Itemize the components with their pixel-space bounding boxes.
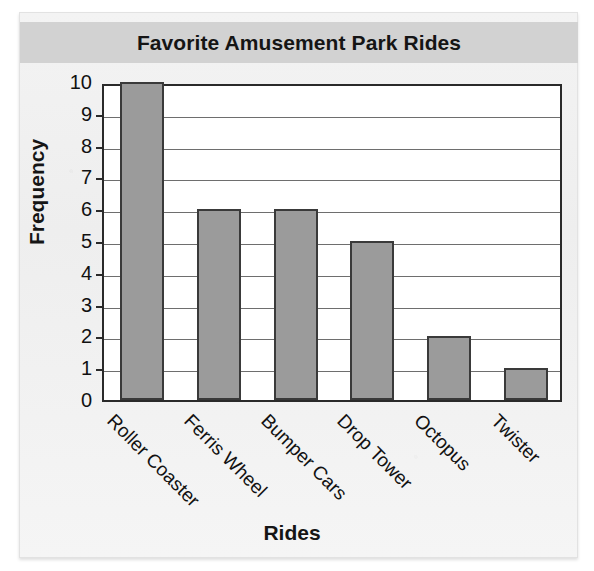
bar-roller-coaster[interactable] <box>120 82 164 400</box>
chart-title: Favorite Amusement Park Rides <box>137 31 461 55</box>
bar-octopus[interactable] <box>427 336 471 400</box>
y-tick-label: 5 <box>44 230 92 253</box>
y-tick-label: 0 <box>44 389 92 412</box>
bars-layer <box>104 86 560 400</box>
y-tick-label: 3 <box>44 294 92 317</box>
y-tick-label: 2 <box>44 325 92 348</box>
bar-bumper-cars[interactable] <box>274 209 318 400</box>
plot-area <box>102 84 562 402</box>
bar-drop-tower[interactable] <box>350 241 394 400</box>
bar-ferris-wheel[interactable] <box>197 209 241 400</box>
y-tick-label: 9 <box>44 103 92 126</box>
y-tick-label: 8 <box>44 135 92 158</box>
y-tick-label: 1 <box>44 357 92 380</box>
bar-twister[interactable] <box>504 368 548 400</box>
y-tick-label: 6 <box>44 198 92 221</box>
scanned-page: Favorite Amusement Park Rides Frequency … <box>0 0 594 571</box>
y-tick-label: 7 <box>44 166 92 189</box>
y-tick-label: 10 <box>44 71 92 94</box>
x-axis-title: Rides <box>102 521 482 545</box>
y-tick-label: 4 <box>44 262 92 285</box>
chart-title-band: Favorite Amusement Park Rides <box>20 22 578 63</box>
